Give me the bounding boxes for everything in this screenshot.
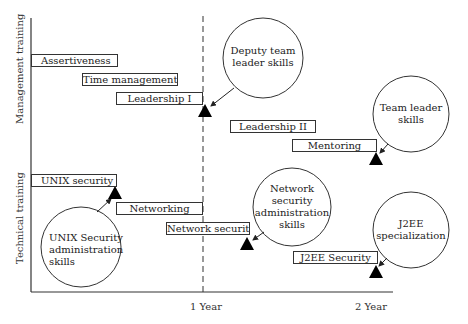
x-tick-2-year: 2 Year	[355, 301, 387, 312]
y-label-management-training: Management training	[14, 14, 25, 124]
milestone-text-line: administration	[252, 207, 332, 219]
milestone-text-line: administration	[49, 244, 129, 256]
arrow-j2ee	[379, 258, 387, 266]
y-label-technical-training: Technical training	[14, 172, 25, 264]
course-j2ee-security: J2EE Security	[293, 251, 378, 264]
milestone-text-line: leader skills	[223, 57, 303, 69]
course-mentoring: Mentoring	[292, 139, 377, 152]
arrow-deputy	[211, 88, 234, 106]
milestone-marker-icon	[369, 152, 383, 165]
course-leadership-ii: Leadership II	[230, 120, 316, 133]
milestone-text-line: security	[252, 195, 332, 207]
milestone-text-line: Team leader	[373, 102, 449, 114]
milestone-text-line: skills	[373, 114, 449, 126]
course-time-management: Time management	[82, 73, 178, 86]
course-network-security: Network security	[166, 222, 250, 235]
milestone-text-line: J2EE	[373, 218, 449, 230]
course-assertiveness: Assertiveness	[31, 54, 118, 67]
course-leadership-i: Leadership I	[116, 92, 203, 105]
arrow-team-leader	[380, 144, 388, 153]
milestone-marker-icon	[369, 265, 383, 278]
milestone-team-leader-skills: Team leader skills	[373, 102, 449, 126]
milestone-marker-icon	[108, 186, 122, 199]
milestone-text-line: Network	[252, 183, 332, 195]
x-tick-1-year: 1 Year	[190, 301, 222, 312]
course-networking: Networking	[116, 202, 203, 215]
milestone-deputy-team-leader-skills: Deputy team leader skills	[223, 45, 303, 69]
course-unix-security: UNIX security	[31, 174, 117, 187]
milestone-j2ee-specialization: J2EE specialization	[373, 218, 449, 242]
skills-roadmap-diagram: Management training Technical training 1…	[0, 0, 468, 324]
milestone-unix-security-administration-skills: UNIX Security administration skills	[49, 232, 129, 268]
milestone-text-line: skills	[49, 256, 129, 268]
milestone-text-line: Deputy team	[223, 45, 303, 57]
milestone-text-line: specialization	[373, 230, 449, 242]
milestone-marker-icon	[198, 104, 212, 117]
milestone-text-line: skills	[252, 219, 332, 231]
arrow-unix	[97, 199, 111, 212]
milestone-network-security-administration-skills: Network security administration skills	[252, 183, 332, 231]
arrow-network	[253, 232, 264, 240]
milestone-text-line: UNIX Security	[49, 232, 129, 244]
milestone-marker-icon	[240, 237, 254, 250]
